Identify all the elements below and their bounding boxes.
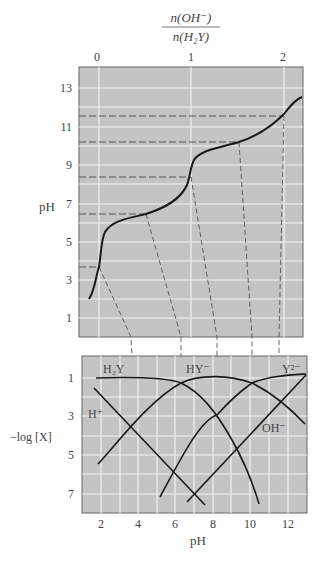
bottom-y-axis-label: −log [X]: [10, 430, 52, 444]
x-bottom-tick: 4: [135, 517, 141, 531]
label-h-plus: H⁺: [88, 407, 103, 421]
x-bottom-tick: 10: [244, 517, 256, 531]
y-top-tick: 5: [66, 235, 72, 249]
y-top-tick: 7: [66, 197, 72, 211]
y-bottom-tick: 3: [68, 409, 74, 423]
top-y-axis-label: pH: [39, 199, 55, 214]
y-top-tick: 3: [66, 273, 72, 287]
x-bottom-tick: 8: [210, 517, 216, 531]
log-concentration-panel: H₂Y HY⁻ Y²⁻ H⁺ OH⁻: [82, 356, 307, 513]
label-oh-minus: OH⁻: [262, 421, 286, 435]
bottom-x-axis-label: pH: [190, 533, 206, 548]
top-axis-denominator: n(H₂Y): [173, 29, 209, 44]
top-tick-1: 1: [188, 50, 194, 64]
y-top-tick: 1: [66, 311, 72, 325]
top-tick-2: 2: [280, 50, 286, 64]
x-bottom-tick: 2: [98, 517, 104, 531]
x-bottom-tick: 12: [282, 517, 294, 531]
top-axis-numerator: n(OH⁻): [171, 10, 212, 25]
y-top-tick: 13: [60, 81, 72, 95]
y-top-tick: 9: [66, 158, 72, 172]
x-bottom-tick: 6: [172, 517, 178, 531]
top-tick-0: 0: [94, 50, 100, 64]
chart-figure: n(OH⁻) n(H₂Y) 0 1 2: [0, 0, 326, 567]
y-bottom-tick: 7: [68, 487, 74, 501]
y-top-tick: 11: [60, 120, 72, 134]
label-y2: Y²⁻: [282, 362, 301, 376]
label-h2y: H₂Y: [103, 362, 125, 376]
y-bottom-tick: 1: [68, 371, 74, 385]
y-bottom-tick: 5: [68, 448, 74, 462]
label-hy: HY⁻: [186, 362, 210, 376]
